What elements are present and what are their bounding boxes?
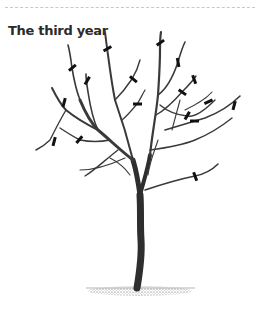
branches [36,32,240,190]
pruning-cut-marks [52,39,237,181]
tree-illustration [0,0,260,313]
trunk [133,155,150,288]
